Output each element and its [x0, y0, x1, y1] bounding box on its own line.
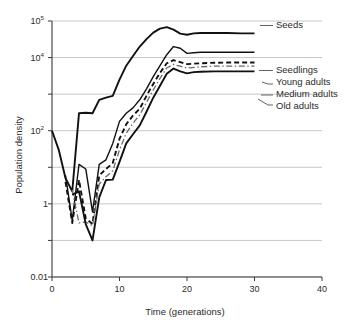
series-label-old-adults: Old adults: [276, 100, 319, 111]
y-tick-label: 0.01: [30, 272, 48, 282]
series-line-medium-adults: [72, 64, 254, 225]
x-tick-label: 10: [114, 284, 124, 294]
y-tick-label: 1: [43, 199, 48, 209]
leader-line-young-adults: [262, 82, 273, 84]
series-label-young-adults: Young adults: [276, 76, 331, 87]
x-tick-label: 20: [182, 284, 192, 294]
data-series-group: [52, 27, 255, 240]
x-tick-label: 30: [249, 284, 259, 294]
series-leaders-group: [258, 26, 273, 106]
y-tick-label: 102: [31, 124, 45, 136]
x-tick-label: 40: [317, 284, 327, 294]
x-axis-title: Time (generations): [145, 306, 224, 317]
leader-line-old-adults: [258, 99, 273, 105]
series-label-seeds: Seeds: [276, 19, 303, 30]
y-axis-title: Population density: [13, 116, 24, 194]
population-density-chart: 0.011102104105010203040 SeedsSeedlingsYo…: [0, 0, 347, 324]
figure-container: 0.011102104105010203040 SeedsSeedlingsYo…: [0, 0, 347, 324]
y-tick-label: 105: [31, 14, 45, 26]
series-label-seedlings: Seedlings: [276, 64, 318, 75]
tick-marks-group: [48, 21, 322, 281]
series-label-medium-adults: Medium adults: [276, 88, 338, 99]
x-tick-label: 0: [49, 284, 54, 294]
series-labels-group: SeedsSeedlingsYoung adultsMedium adultsO…: [276, 19, 338, 111]
y-tick-label: 104: [31, 51, 45, 63]
series-line-seedlings: [66, 47, 255, 221]
